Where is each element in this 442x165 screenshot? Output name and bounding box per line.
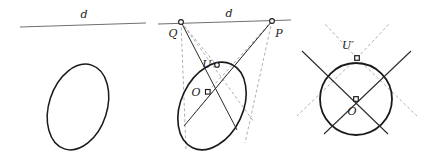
point-marker-O-right (354, 97, 359, 102)
panel-right: U′ O (297, 23, 417, 135)
geometry-canvas: d d (0, 0, 442, 165)
dashed-Uprime-lower-right (357, 58, 417, 116)
figure-root: d d (0, 0, 442, 165)
conic-ellipse-middle (164, 51, 259, 161)
label-P: P (274, 27, 283, 40)
solid-ray-upper-right-through-O (324, 51, 411, 134)
label-O-right: O (347, 105, 356, 118)
point-marker-Q (179, 20, 184, 25)
label-Uprime: U′ (342, 39, 354, 52)
dashed-P-to-O (205, 21, 272, 95)
label-U: U (202, 58, 212, 71)
label-d-left: d (80, 8, 87, 21)
point-marker-U (215, 63, 220, 68)
solid-Q-secant (181, 22, 237, 130)
panel-middle: d Q P U O (158, 7, 291, 161)
panel-left: d (20, 8, 146, 158)
dashed-Q-to-U (181, 22, 219, 68)
dashed-Q-to-far-right (181, 22, 254, 122)
solid-ray-upper-left-through-O (302, 51, 388, 134)
point-marker-O-middle (206, 90, 211, 95)
label-d-middle: d (225, 7, 232, 20)
directrix-line-left (20, 23, 146, 27)
dashed-Q-tangent-lower (181, 22, 186, 150)
point-marker-Uprime (355, 56, 360, 61)
label-Q: Q (168, 27, 177, 40)
conic-ellipse-left (37, 56, 119, 158)
dashed-Uprime-upper-right (357, 23, 390, 58)
point-marker-P (270, 19, 275, 24)
dashed-P-tangent-lower (245, 21, 272, 143)
label-O-middle: O (191, 86, 200, 99)
